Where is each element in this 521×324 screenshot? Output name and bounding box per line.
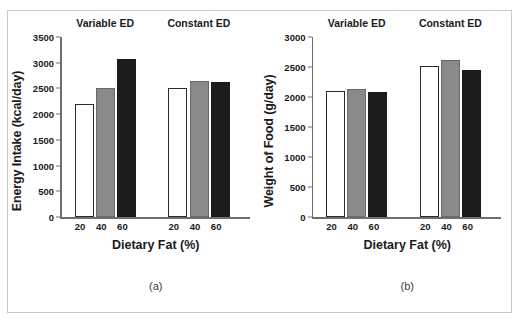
y-tick-label: 2500 xyxy=(284,62,305,73)
bar-group-label: Constant ED xyxy=(167,17,231,29)
bar-group-label: Constant ED xyxy=(419,17,483,29)
y-axis-ticks-b: 050010001500200025003000 xyxy=(282,37,312,217)
panel-caption-a: (a) xyxy=(60,280,252,292)
y-tick-label: 1000 xyxy=(33,160,54,171)
y-axis-title-b: Weight of Food (g/day) xyxy=(262,43,280,239)
bar-group-label: Variable ED xyxy=(73,17,137,29)
panel-caption-b: (b) xyxy=(312,280,504,292)
bar xyxy=(211,82,230,217)
bar-group: Variable ED xyxy=(325,37,389,217)
y-tick-label: 2500 xyxy=(33,83,54,94)
figure-panels: Energy Intake (kcal/day) 050010001500200… xyxy=(8,11,511,312)
y-axis-ticks-a: 0500100015002000250030003500 xyxy=(30,37,60,217)
y-tick-label: 500 xyxy=(38,186,54,197)
x-axis-title-a: Dietary Fat (%) xyxy=(60,238,252,252)
bar xyxy=(368,92,387,217)
x-tick-label: 60 xyxy=(456,221,480,232)
y-axis-title-a: Energy Intake (kcal/day) xyxy=(10,43,28,239)
bar xyxy=(420,66,439,217)
chart-panel-b: Weight of Food (g/day) 05001000150020002… xyxy=(260,11,512,312)
y-tick-label: 1000 xyxy=(284,152,305,163)
bar xyxy=(347,89,366,217)
bar-group-label: Variable ED xyxy=(325,17,389,29)
bar xyxy=(117,59,136,217)
x-axis-line-b xyxy=(312,217,502,219)
y-tick-label: 2000 xyxy=(33,109,54,120)
bar-series-a: Variable EDConstant ED xyxy=(62,37,250,217)
bar-group: Constant ED xyxy=(419,37,483,217)
bar-group: Variable ED xyxy=(73,37,137,217)
y-tick-label: 3500 xyxy=(33,32,54,43)
plot-area-a: 0500100015002000250030003500 Variable ED… xyxy=(30,37,252,312)
figure-frame: Energy Intake (kcal/day) 050010001500200… xyxy=(7,10,512,313)
x-tick-label: 60 xyxy=(110,221,134,232)
y-tick-label: 1500 xyxy=(284,122,305,133)
x-tick-label: 60 xyxy=(204,221,228,232)
y-tick-label: 2000 xyxy=(284,92,305,103)
bar-group: Constant ED xyxy=(167,37,231,217)
x-axis-title-b: Dietary Fat (%) xyxy=(312,238,504,252)
y-tick-label: 500 xyxy=(290,182,306,193)
bar xyxy=(441,60,460,217)
bar xyxy=(326,91,345,217)
plot-area-b: 050010001500200025003000 Variable EDCons… xyxy=(282,37,504,312)
bar-series-b: Variable EDConstant ED xyxy=(314,37,502,217)
y-tick-label: 3000 xyxy=(33,57,54,68)
bar xyxy=(190,81,209,217)
y-tick-label: 1500 xyxy=(33,134,54,145)
x-axis-line-a xyxy=(60,217,250,219)
bar xyxy=(168,88,187,217)
y-tick-label: 3000 xyxy=(284,32,305,43)
y-tick-label: 0 xyxy=(300,212,305,223)
bar xyxy=(462,70,481,217)
x-axis-ticks-a: 204060204060 xyxy=(62,221,250,237)
x-tick-label: 60 xyxy=(362,221,386,232)
y-tick-label: 0 xyxy=(49,212,54,223)
chart-panel-a: Energy Intake (kcal/day) 050010001500200… xyxy=(8,11,260,312)
bar xyxy=(96,88,115,217)
x-axis-ticks-b: 204060204060 xyxy=(314,221,502,237)
bar xyxy=(75,104,94,217)
